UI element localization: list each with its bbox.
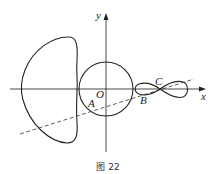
y-axis-arrow-icon	[104, 13, 109, 20]
point-c-label: C	[155, 75, 163, 87]
left-d-shaped-curve	[21, 37, 77, 143]
x-axis-label: x	[200, 90, 206, 102]
point-b-label: B	[140, 94, 147, 106]
y-axis-label: y	[95, 9, 101, 21]
figure-canvas: y x O A B C 图 22	[0, 0, 217, 174]
secant-line	[20, 79, 194, 134]
point-a-label: A	[87, 97, 95, 109]
origin-label: O	[96, 88, 104, 100]
figure-caption: 图 22	[96, 162, 119, 172]
